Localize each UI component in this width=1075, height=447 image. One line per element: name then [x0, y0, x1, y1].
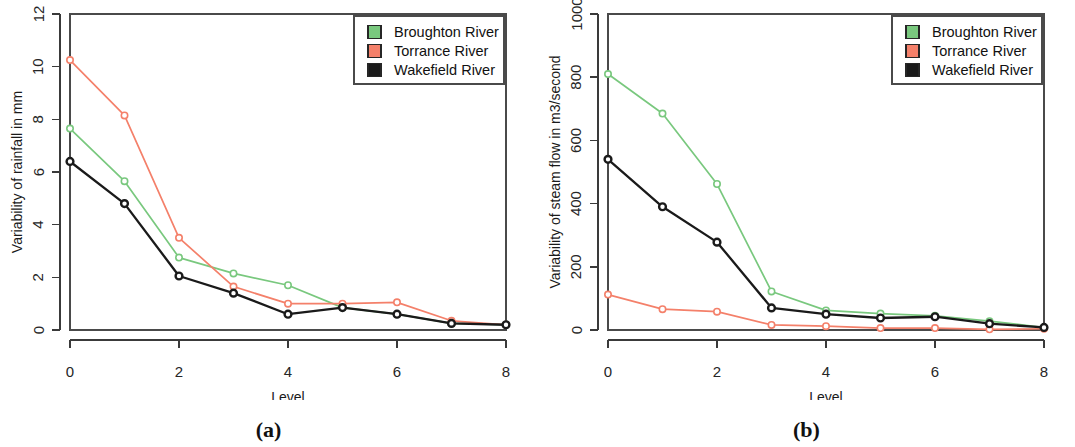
- data-point: [1041, 324, 1048, 331]
- data-point: [714, 308, 720, 314]
- series-line-broughton-river: [608, 74, 1044, 327]
- legend-label: Torrance River: [932, 43, 1026, 59]
- x-axis-tick-label: 8: [1040, 363, 1048, 380]
- data-point: [659, 203, 666, 210]
- legend-label: Wakefield River: [932, 62, 1033, 78]
- data-point: [121, 200, 128, 207]
- data-point: [230, 270, 236, 276]
- x-axis-tick-label: 4: [822, 363, 830, 380]
- x-axis-tick-label: 6: [931, 363, 939, 380]
- data-point: [339, 304, 346, 311]
- y-axis-tick-label: 4: [30, 220, 47, 228]
- y-axis-tick-label: 2: [30, 273, 47, 281]
- legend-swatch-torrance-river: [906, 45, 919, 58]
- data-point: [659, 306, 665, 312]
- y-axis-tick-label: 10: [30, 58, 47, 75]
- x-axis-tick-label: 0: [604, 363, 612, 380]
- data-point: [176, 254, 182, 260]
- data-point: [121, 112, 127, 118]
- data-point: [714, 239, 721, 246]
- data-point: [503, 321, 510, 328]
- x-axis-tick-label: 0: [66, 363, 74, 380]
- chart-panel-a: 02468101202468LevelVariability of rainfa…: [0, 0, 537, 447]
- data-point: [285, 300, 291, 306]
- y-axis-title: Variability of steam flow in m3/second: [547, 55, 563, 288]
- panel-a-caption: (a): [0, 417, 537, 443]
- figure-two-panel-line-charts: 02468101202468LevelVariability of rainfa…: [0, 0, 1075, 447]
- data-point: [448, 320, 455, 327]
- legend-label: Broughton River: [932, 24, 1037, 40]
- legend-label: Broughton River: [394, 24, 499, 40]
- data-point: [714, 181, 720, 187]
- y-axis-tick-label: 600: [568, 128, 585, 153]
- x-axis-title: Level: [271, 389, 304, 400]
- y-axis-tick-label: 400: [568, 191, 585, 216]
- y-axis-title: Variability of rainfall in mm: [9, 91, 25, 253]
- y-axis-tick-label: 800: [568, 65, 585, 90]
- data-point: [877, 325, 883, 331]
- data-point: [605, 156, 612, 163]
- data-point: [394, 299, 400, 305]
- data-point: [932, 325, 938, 331]
- legend-swatch-wakefield-river: [906, 64, 919, 77]
- y-axis-tick-label: 12: [30, 6, 47, 23]
- y-axis-tick-label: 8: [30, 115, 47, 123]
- legend-swatch-broughton-river: [368, 26, 381, 39]
- data-point: [176, 273, 183, 280]
- data-point: [121, 178, 127, 184]
- data-point: [285, 311, 292, 318]
- series-line-broughton-river: [70, 129, 506, 325]
- data-point: [176, 235, 182, 241]
- x-axis-title: Level: [809, 389, 842, 400]
- data-point: [768, 322, 774, 328]
- data-point: [67, 158, 74, 165]
- x-axis-tick-label: 8: [502, 363, 510, 380]
- data-point: [605, 71, 611, 77]
- data-point: [932, 313, 939, 320]
- y-axis-tick-label: 200: [568, 254, 585, 279]
- legend-swatch-wakefield-river: [368, 64, 381, 77]
- series-line-wakefield-river: [608, 159, 1044, 327]
- data-point: [877, 315, 884, 322]
- data-point: [823, 311, 830, 318]
- data-point: [823, 323, 829, 329]
- panel-b-plot: 0200400600800100002468LevelVariability o…: [538, 0, 1075, 400]
- x-axis-tick-label: 6: [393, 363, 401, 380]
- data-point: [986, 320, 993, 327]
- data-point: [605, 291, 611, 297]
- chart-panel-b: 0200400600800100002468LevelVariability o…: [538, 0, 1075, 447]
- legend-swatch-torrance-river: [368, 45, 381, 58]
- x-axis-tick-label: 2: [713, 363, 721, 380]
- y-axis-tick-label: 6: [30, 168, 47, 176]
- legend-label: Torrance River: [394, 43, 488, 59]
- legend-swatch-broughton-river: [906, 26, 919, 39]
- data-point: [768, 304, 775, 311]
- panel-a-plot: 02468101202468LevelVariability of rainfa…: [0, 0, 537, 400]
- x-axis-tick-label: 2: [175, 363, 183, 380]
- legend-label: Wakefield River: [394, 62, 495, 78]
- data-point: [230, 290, 237, 297]
- panel-b-caption: (b): [538, 417, 1075, 443]
- data-point: [394, 311, 401, 318]
- data-point: [285, 282, 291, 288]
- data-point: [67, 125, 73, 131]
- data-point: [67, 57, 73, 63]
- y-axis-tick-label: 1000: [568, 0, 585, 31]
- x-axis-tick-label: 4: [284, 363, 292, 380]
- data-point: [768, 288, 774, 294]
- data-point: [659, 110, 665, 116]
- y-axis-tick-label: 0: [568, 326, 585, 334]
- y-axis-tick-label: 0: [30, 326, 47, 334]
